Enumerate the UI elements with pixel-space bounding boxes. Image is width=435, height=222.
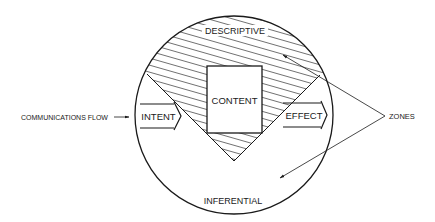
communications-flow-label: COMMUNICATIONS FLOW <box>21 114 108 121</box>
content-label: CONTENT <box>212 95 258 106</box>
intent-label: INTENT <box>141 111 176 122</box>
descriptive-label: DESCRIPTIVE <box>205 26 265 36</box>
communications-zones-diagram: CONTENT DESCRIPTIVE INFERENTIAL INTENT E… <box>0 0 435 222</box>
inferential-label: INFERENTIAL <box>204 196 263 206</box>
zones-label: ZONES <box>389 112 415 121</box>
effect-label: EFFECT <box>286 110 323 121</box>
